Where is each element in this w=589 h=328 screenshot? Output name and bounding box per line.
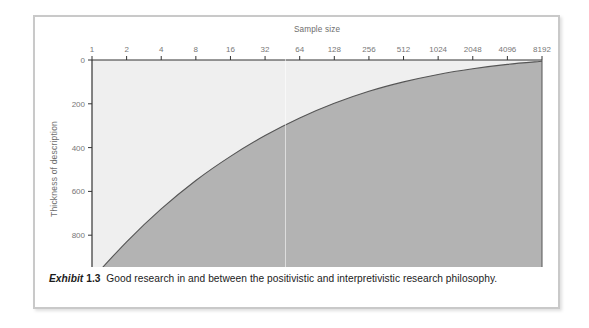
caption-body-text: Good research in and between the positiv…: [106, 273, 497, 284]
x-tick-label: 2: [124, 45, 129, 54]
exhibit-figure-frame: Sample size Thickness of description 124…: [33, 15, 560, 309]
x-tick-label: 4: [159, 45, 164, 54]
y-tick-label: 0: [81, 56, 86, 65]
y-tick-label: 600: [72, 187, 86, 196]
x-tick-label: 256: [362, 45, 376, 54]
x-tick-label: 8192: [533, 45, 551, 54]
caption-exhibit-number: 1.3: [86, 273, 100, 284]
x-tick-label: 4096: [498, 45, 516, 54]
y-axis-ticks: 02004006008001000: [67, 56, 92, 267]
y-tick-label: 800: [72, 231, 86, 240]
x-tick-label: 1024: [429, 45, 447, 54]
caption-exhibit-label: Exhibit: [49, 273, 83, 284]
x-tick-label: 64: [295, 45, 304, 54]
area-chart: Sample size Thickness of description 124…: [35, 17, 562, 267]
chart-area: Sample size Thickness of description 124…: [35, 17, 562, 267]
x-tick-label: 512: [397, 45, 411, 54]
x-tick-label: 128: [328, 45, 342, 54]
x-tick-label: 8: [194, 45, 199, 54]
y-tick-label: 400: [72, 144, 86, 153]
y-axis-title: Thickness of description: [49, 121, 59, 217]
x-tick-label: 32: [261, 45, 270, 54]
y-tick-label: 200: [72, 100, 86, 109]
exhibit-caption: Exhibit 1.3 Good research in and between…: [49, 272, 554, 285]
x-axis-ticks: 12481632641282565121024204840968192: [90, 45, 552, 60]
x-tick-label: 1: [90, 45, 95, 54]
x-axis-title: Sample size: [294, 25, 341, 34]
x-tick-label: 16: [226, 45, 235, 54]
x-tick-label: 2048: [464, 45, 482, 54]
